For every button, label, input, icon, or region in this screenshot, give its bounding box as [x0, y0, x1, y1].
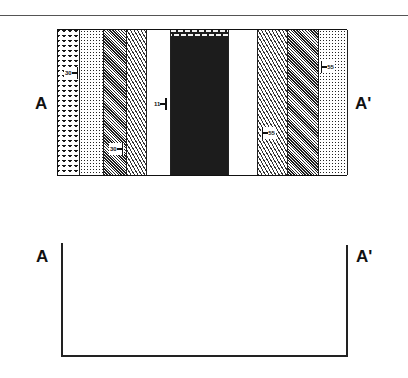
map-band-10 [319, 30, 348, 175]
dip-value: 30 [65, 70, 72, 77]
profile-label-a-prime: A' [356, 247, 372, 267]
strike-dip-symbol: 55 [320, 61, 335, 73]
map-band-7 [229, 30, 258, 175]
brick-pattern [171, 30, 228, 175]
profile-label-a: A [36, 247, 48, 267]
strike-line [122, 143, 123, 155]
map-band-4 [127, 30, 147, 175]
strike-dip-symbol: 30 [109, 143, 124, 155]
profile-left-edge [61, 243, 63, 356]
dip-value: 55 [327, 64, 334, 71]
profile-right-edge [346, 245, 348, 356]
strike-dip-symbol: 30 [64, 67, 79, 79]
map-band-6 [171, 30, 229, 175]
dip-value: 30 [110, 146, 117, 153]
map-band-9 [288, 30, 319, 175]
map-band-2 [80, 30, 104, 175]
strike-dip-symbol: 11 [153, 98, 168, 110]
map-label-a-prime: A' [355, 94, 371, 114]
strike-line [165, 98, 166, 110]
map-band-8 [258, 30, 288, 175]
map-band-1 [58, 30, 80, 175]
map-label-a: A [35, 94, 47, 114]
strike-dip-symbol: 55 [261, 127, 276, 139]
strike-line [77, 67, 78, 79]
dip-value: 55 [268, 130, 275, 137]
top-rule-line [0, 15, 408, 16]
profile-base-line [61, 355, 348, 357]
geologic-map: 30 30 11 55 55 [57, 29, 347, 176]
